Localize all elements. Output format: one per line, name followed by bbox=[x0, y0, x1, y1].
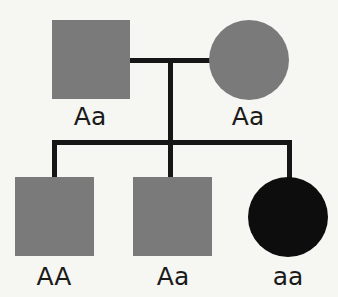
child-3-circle-affected bbox=[248, 177, 328, 257]
child-1-square bbox=[15, 177, 94, 256]
child-3-genotype-label: aa bbox=[248, 264, 328, 290]
descent-line bbox=[168, 58, 173, 145]
child-2-genotype-label: Aa bbox=[133, 264, 213, 290]
pedigree-chart: Aa Aa AA Aa aa bbox=[0, 0, 338, 297]
child-1-drop-line bbox=[52, 140, 57, 178]
mother-genotype-label: Aa bbox=[208, 104, 288, 130]
father-genotype-label: Aa bbox=[50, 104, 130, 130]
child-2-drop-line bbox=[168, 140, 173, 178]
child-2-square bbox=[133, 177, 212, 256]
mother-circle bbox=[209, 20, 289, 100]
child-3-drop-line bbox=[287, 140, 292, 178]
child-1-genotype-label: AA bbox=[14, 264, 94, 290]
father-square bbox=[52, 20, 130, 99]
